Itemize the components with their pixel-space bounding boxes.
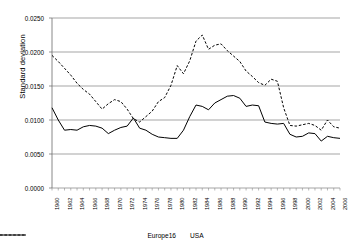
x-tick-label: 2000 xyxy=(305,198,311,210)
x-tick-label: 1974 xyxy=(142,198,148,210)
x-tick-label: 1968 xyxy=(104,198,110,210)
x-tick-label: 1994 xyxy=(267,198,273,210)
legend-item-usa: USA xyxy=(190,232,204,239)
x-tick-label: 1964 xyxy=(79,198,85,210)
line-chart: Standard deviation 0.02500.02000.01500.0… xyxy=(0,0,351,251)
chart-legend: Europe16USA xyxy=(0,232,351,239)
x-tick-label: 1990 xyxy=(242,198,248,210)
x-tick-label: 1988 xyxy=(230,198,236,210)
x-tick-label: 2004 xyxy=(330,198,336,210)
x-tick-label: 1996 xyxy=(280,198,286,210)
legend-item-europe16: Europe16 xyxy=(147,232,176,239)
x-tick-label: 1980 xyxy=(179,198,185,210)
legend-swatch-dashed xyxy=(0,232,26,238)
x-tick-label: 1962 xyxy=(67,198,73,210)
x-tick-label: 2006 xyxy=(342,198,348,210)
x-axis-tick-labels: 1960196219641966196819701972197419761978… xyxy=(0,0,351,251)
x-tick-label: 1998 xyxy=(292,198,298,210)
x-tick-label: 1970 xyxy=(117,198,123,210)
x-tick-label: 1986 xyxy=(217,198,223,210)
x-tick-label: 1960 xyxy=(54,198,60,210)
x-tick-label: 1978 xyxy=(167,198,173,210)
x-tick-label: 1966 xyxy=(92,198,98,210)
x-tick-label: 1982 xyxy=(192,198,198,210)
x-tick-label: 1992 xyxy=(255,198,261,210)
x-tick-label: 1976 xyxy=(154,198,160,210)
x-tick-label: 1984 xyxy=(204,198,210,210)
x-tick-label: 2002 xyxy=(317,198,323,210)
legend-label: Europe16 xyxy=(147,232,176,239)
legend-label: USA xyxy=(190,232,204,239)
x-tick-label: 1972 xyxy=(129,198,135,210)
